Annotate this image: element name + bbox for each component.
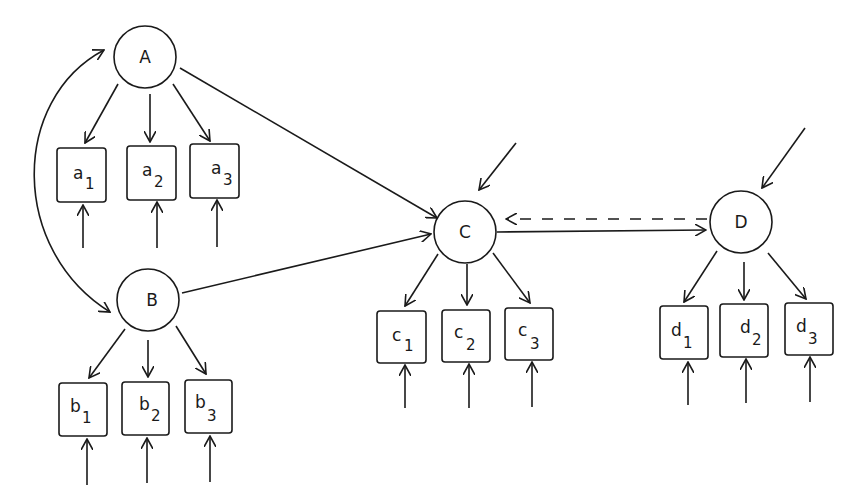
latent-label-a: A xyxy=(139,47,151,67)
indicator-base: c xyxy=(518,320,527,340)
latent-node-d: D xyxy=(710,191,772,253)
indicator-subscript: 1 xyxy=(404,337,414,355)
indicator-d1: d 1 xyxy=(660,306,708,359)
latent-label-d: D xyxy=(734,212,747,232)
indicator-base: b xyxy=(70,396,81,416)
disturbance-arrow-c xyxy=(479,143,516,190)
indicator-base: d xyxy=(796,316,807,336)
indicator-base: b xyxy=(139,394,150,414)
indicator-base: d xyxy=(740,317,751,337)
indicator-subscript: 2 xyxy=(151,407,161,425)
indicator-base: d xyxy=(671,320,682,340)
indicator-base: a xyxy=(142,160,152,180)
indicator-b1: b 1 xyxy=(59,383,107,436)
indicator-base: a xyxy=(211,158,221,178)
latent-label-c: C xyxy=(459,222,471,242)
indicator-subscript: 3 xyxy=(207,407,217,425)
indicator-subscript: 2 xyxy=(154,173,164,191)
indicator-subscript: 2 xyxy=(752,331,762,349)
indicator-b2: b 2 xyxy=(122,382,169,435)
indicator-subscript: 1 xyxy=(85,175,95,193)
indicator-base: a xyxy=(73,163,83,183)
indicator-c2: c 2 xyxy=(442,310,490,362)
indicator-subscript: 1 xyxy=(82,409,92,427)
loading-c-c1 xyxy=(405,254,438,306)
loading-b-b3 xyxy=(176,326,206,374)
path-diagram: A B C D a 1 a 2 a 3 b 1 b 2 b 3 xyxy=(0,0,853,492)
loading-b-b1 xyxy=(89,329,125,378)
path-c-to-d xyxy=(497,230,706,232)
loading-d-d1 xyxy=(684,251,717,302)
indicator-subscript: 1 xyxy=(683,334,693,352)
path-b-to-c xyxy=(182,234,431,293)
indicator-a1: a 1 xyxy=(57,148,106,202)
disturbance-arrow-d xyxy=(762,128,805,188)
indicator-a2: a 2 xyxy=(127,146,176,200)
indicator-subscript: 3 xyxy=(530,335,540,353)
indicator-base: c xyxy=(454,322,463,342)
indicator-d3: d 3 xyxy=(785,303,833,355)
indicator-base: c xyxy=(392,325,401,345)
indicator-d2: d 2 xyxy=(720,304,768,357)
latent-node-a: A xyxy=(114,26,176,88)
indicator-c3: c 3 xyxy=(505,308,553,360)
loading-d-d3 xyxy=(768,253,806,299)
latent-node-b: B xyxy=(117,269,179,331)
indicator-subscript: 2 xyxy=(466,336,476,354)
latent-node-c: C xyxy=(434,201,496,263)
loading-a-a1 xyxy=(85,84,118,143)
indicator-c1: c 1 xyxy=(377,311,426,363)
latent-label-b: B xyxy=(146,290,158,310)
indicator-subscript: 3 xyxy=(223,171,233,189)
indicator-subscript: 3 xyxy=(808,330,818,348)
loading-c-c3 xyxy=(493,253,530,303)
indicator-b3: b 3 xyxy=(185,380,232,433)
loading-a-a3 xyxy=(173,84,210,141)
indicator-a3: a 3 xyxy=(190,144,239,198)
indicator-base: b xyxy=(195,392,206,412)
